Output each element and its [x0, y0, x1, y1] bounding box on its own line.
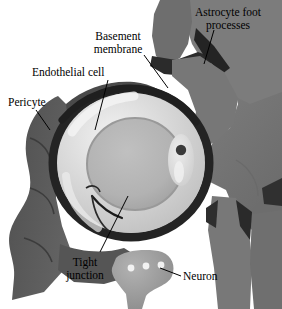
- nucleus-shape: [176, 145, 186, 155]
- endothelial-cell-shape: [57, 93, 205, 233]
- label-endothelial-cell: Endothelial cell: [32, 66, 130, 79]
- neuron-vesicle: [143, 263, 150, 270]
- label-neuron: Neuron: [183, 270, 241, 283]
- label-astrocyte-foot-processes: Astrocyte foot processes: [176, 6, 280, 31]
- neuron-vesicle: [158, 262, 165, 269]
- label-basement-membrane: Basement membrane: [78, 30, 158, 55]
- label-pericyte: Pericyte: [8, 96, 66, 109]
- neuron-shape: [112, 250, 174, 309]
- neuron-vesicle: [128, 265, 135, 272]
- blood-brain-barrier-figure: Astrocyte foot processes Basement membra…: [0, 0, 282, 309]
- label-tight-junction: Tight junction: [57, 256, 113, 281]
